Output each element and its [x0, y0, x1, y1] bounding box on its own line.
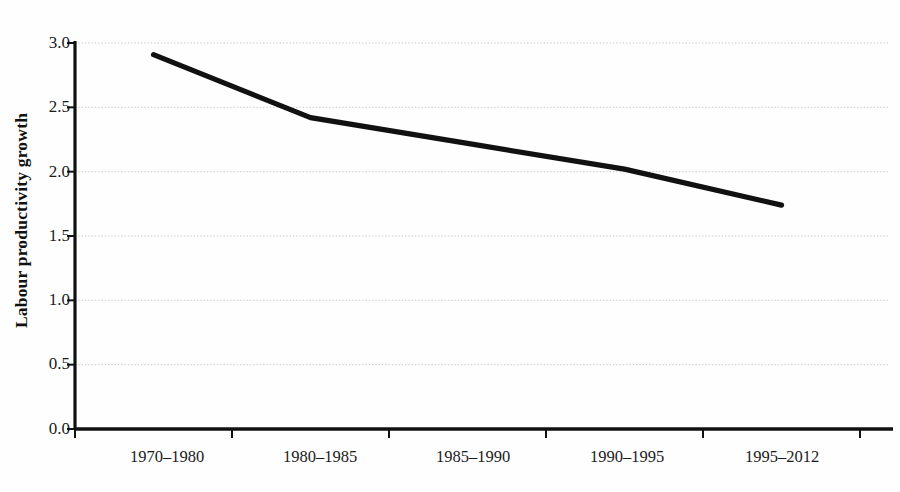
data-series-line — [154, 55, 782, 206]
chart-figure: Labour productivity growth 3.0 2.5 2.0 1… — [0, 0, 900, 492]
plot-area — [0, 0, 900, 492]
